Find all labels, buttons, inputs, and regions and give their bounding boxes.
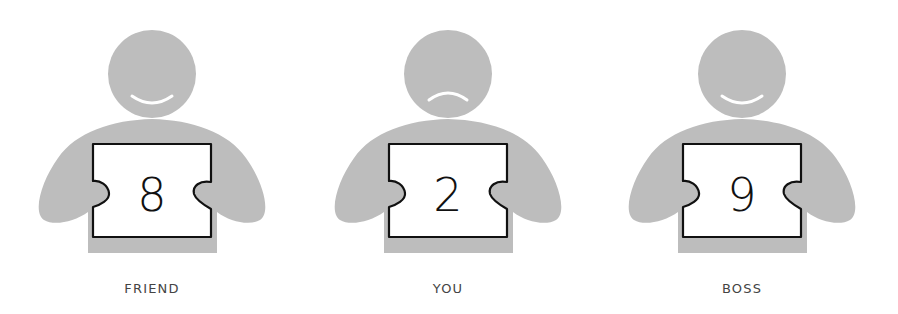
score-value: 8 [92,160,212,230]
head [698,30,786,118]
score-value: 2 [388,160,508,230]
person-icon [594,0,890,314]
figure-label: BOSS [662,281,822,296]
figure-you: 2 YOU [300,0,596,314]
head [108,30,196,118]
person-icon [300,0,596,314]
head [404,30,492,118]
figure-boss: 9 BOSS [594,0,890,314]
score-value: 9 [682,160,802,230]
figure-friend: 8 FRIEND [4,0,300,314]
figure-label: YOU [368,281,528,296]
figure-label: FRIEND [72,281,232,296]
person-icon [4,0,300,314]
